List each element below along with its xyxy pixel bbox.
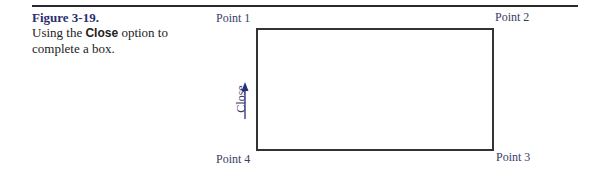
point-3-label: Point 3 — [496, 150, 530, 165]
arrow-up-icon — [240, 82, 250, 120]
figure-caption: Figure 3-19. Using the Close option to c… — [32, 10, 192, 56]
point-4-label: Point 4 — [216, 152, 250, 167]
caption-text-before: Using the — [32, 25, 85, 40]
top-rule — [32, 5, 578, 7]
caption-bold-term: Close — [85, 26, 118, 40]
point-2-label: Point 2 — [495, 10, 529, 25]
figure-title: Figure 3-19. — [32, 10, 192, 25]
point-1-label: Point 1 — [216, 11, 250, 26]
rectangle-box — [256, 28, 494, 151]
